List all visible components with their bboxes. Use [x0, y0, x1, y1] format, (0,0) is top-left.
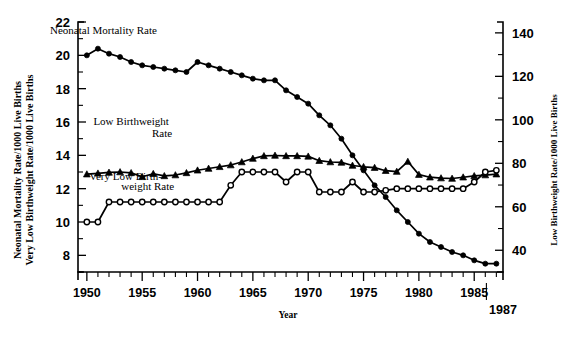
- chart-figure: Neonatal Mortality Rate/1000 Live Births…: [0, 0, 567, 339]
- data-point: [151, 65, 156, 70]
- data-point: [472, 179, 477, 184]
- data-point: [449, 186, 454, 191]
- data-point: [95, 219, 100, 224]
- data-point: [239, 169, 244, 174]
- data-point: [228, 183, 233, 188]
- data-point: [450, 250, 455, 255]
- data-point: [195, 199, 200, 204]
- data-point: [162, 199, 167, 204]
- data-point: [228, 70, 233, 75]
- x-axis-end-year-label: 1987: [489, 303, 517, 317]
- y-axis-right-tick-label: 140: [512, 26, 534, 41]
- y-axis-left-title-line1: Neonatal Mortality Rate/1000 Live Births: [11, 81, 22, 259]
- y-axis-right-tick-label: 120: [512, 69, 534, 84]
- data-point: [273, 78, 278, 83]
- y-axis-left-tick-label: 10: [56, 215, 70, 230]
- data-point: [328, 123, 333, 128]
- data-point: [350, 153, 355, 158]
- y-axis-right-tick-label: 100: [512, 113, 534, 128]
- series-annotation: Rate: [152, 127, 172, 139]
- data-point: [106, 51, 111, 56]
- data-point: [117, 199, 122, 204]
- data-point: [184, 199, 189, 204]
- data-point: [317, 113, 322, 118]
- data-point: [139, 199, 144, 204]
- x-axis-tick-label: 1985: [460, 286, 488, 300]
- data-point: [405, 186, 410, 191]
- x-axis-tick-label: 1965: [239, 286, 267, 300]
- data-point: [461, 253, 466, 258]
- y-axis-left-line: [78, 22, 84, 272]
- data-point: [405, 220, 410, 225]
- data-point: [372, 189, 377, 194]
- data-point: [173, 199, 178, 204]
- data-point: [483, 169, 488, 174]
- data-point: [350, 179, 355, 184]
- y-axis-left-tick-label: 16: [56, 115, 70, 130]
- data-point: [383, 188, 388, 193]
- y-axis-right-line: [497, 22, 503, 272]
- data-point: [427, 240, 432, 245]
- y-axis-right-title: Low Birthweight Rate/1000 Live Births: [543, 0, 565, 339]
- data-point: [339, 189, 344, 194]
- data-point: [162, 66, 167, 71]
- data-point: [84, 219, 89, 224]
- data-point: [206, 199, 211, 204]
- series-annotation: Low Birthweight: [93, 115, 168, 127]
- data-point: [250, 76, 255, 81]
- data-point: [383, 195, 388, 200]
- data-point: [140, 63, 145, 68]
- data-point: [84, 53, 89, 58]
- data-point: [95, 46, 100, 51]
- data-point: [361, 189, 366, 194]
- series-annotation: Neonatal Mortality Rate: [50, 24, 157, 36]
- data-point: [173, 68, 178, 73]
- y-axis-left-title-line2: Very Low Birthweight Rate/1000 Live Birt…: [23, 74, 34, 265]
- data-point: [427, 186, 432, 191]
- data-point: [261, 169, 266, 174]
- data-point: [416, 186, 421, 191]
- chart-plot-area: 8101214161820224060801001201401950195519…: [0, 0, 567, 339]
- y-axis-right-tick-label: 40: [512, 243, 526, 258]
- data-point: [129, 60, 134, 65]
- data-point: [106, 199, 111, 204]
- data-point: [472, 258, 477, 263]
- data-point: [317, 189, 322, 194]
- data-point: [250, 169, 255, 174]
- x-axis-tick-label: 1950: [73, 286, 101, 300]
- x-axis-tick-label: 1975: [350, 286, 378, 300]
- y-axis-left-tick-label: 20: [56, 48, 70, 63]
- y-axis-left-tick-label: 8: [63, 248, 70, 263]
- data-point: [460, 186, 465, 191]
- data-point: [128, 199, 133, 204]
- data-point: [416, 231, 421, 236]
- y-axis-left-tick-label: 18: [56, 82, 70, 97]
- y-axis-right-tick-label: 80: [512, 156, 526, 171]
- data-point: [239, 73, 244, 78]
- data-point: [195, 60, 200, 65]
- data-point: [217, 199, 222, 204]
- data-point: [284, 88, 289, 93]
- data-point: [272, 169, 277, 174]
- data-point: [328, 189, 333, 194]
- y-axis-left-tick-label: 14: [56, 148, 71, 163]
- data-point: [372, 183, 377, 188]
- x-axis-tick-label: 1955: [128, 286, 156, 300]
- y-axis-left-tick-label: 12: [56, 182, 70, 197]
- data-point: [206, 63, 211, 68]
- data-point: [394, 186, 399, 191]
- data-point: [404, 158, 411, 164]
- data-point: [217, 66, 222, 71]
- y-axis-right-tick-label: 60: [512, 200, 526, 215]
- data-point: [339, 136, 344, 141]
- data-point: [394, 208, 399, 213]
- y-axis-left-title: Neonatal Mortality Rate/1000 Live Births…: [6, 0, 40, 339]
- data-point: [151, 199, 156, 204]
- data-point: [184, 70, 189, 75]
- data-point: [261, 78, 266, 83]
- data-point: [439, 245, 444, 250]
- x-axis-tick-label: 1960: [184, 286, 212, 300]
- x-axis-tick-label: 1980: [405, 286, 433, 300]
- data-point: [306, 101, 311, 106]
- chart-series-group: [83, 46, 499, 266]
